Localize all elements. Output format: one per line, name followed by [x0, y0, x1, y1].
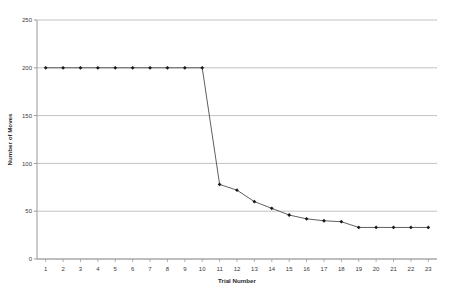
data-point-trial-23	[426, 226, 430, 230]
data-point-trial-14	[270, 206, 274, 210]
data-point-trial-17	[322, 219, 326, 223]
data-point-trial-19	[357, 226, 361, 230]
gridlines	[37, 20, 437, 259]
x-tick-label-12: 12	[234, 266, 241, 272]
data-point-trial-8	[166, 66, 170, 70]
x-tick-label-23: 23	[425, 266, 432, 272]
y-tick-label-0: 0	[29, 256, 33, 262]
y-tick-label-100: 100	[22, 161, 33, 167]
x-tick-label-11: 11	[216, 266, 223, 272]
x-tick-label-15: 15	[286, 266, 293, 272]
x-tick-label-18: 18	[338, 266, 345, 272]
x-tick-label-3: 3	[79, 266, 83, 272]
data-point-trial-18	[339, 220, 343, 224]
x-tick-label-9: 9	[183, 266, 187, 272]
y-tick-label-150: 150	[22, 113, 33, 119]
data-point-trial-22	[409, 226, 413, 230]
y-tick-label-250: 250	[22, 17, 33, 23]
data-line-number-of-moves	[46, 68, 429, 228]
x-tick-label-14: 14	[268, 266, 275, 272]
data-point-trial-21	[392, 226, 396, 230]
x-tick-label-21: 21	[390, 266, 397, 272]
x-axis-title: Trial Number	[218, 277, 256, 284]
data-point-trial-3	[79, 66, 83, 70]
x-tick-label-7: 7	[148, 266, 152, 272]
data-point-trial-4	[96, 66, 100, 70]
x-tick-label-8: 8	[166, 266, 170, 272]
y-axis-title: Number of Moves	[6, 113, 13, 165]
data-point-trial-5	[113, 66, 117, 70]
y-tick-label-50: 50	[25, 208, 32, 214]
data-point-trial-10	[200, 66, 204, 70]
data-point-trial-16	[305, 217, 309, 221]
data-markers	[44, 66, 430, 229]
x-tick-label-2: 2	[61, 266, 65, 272]
x-tick-label-6: 6	[131, 266, 135, 272]
data-point-trial-11	[218, 183, 222, 187]
data-point-trial-15	[287, 213, 291, 217]
x-tick-label-13: 13	[251, 266, 258, 272]
chart-container: 0501001502002501234567891011121314151617…	[0, 0, 450, 293]
y-tick-label-200: 200	[22, 65, 33, 71]
data-point-trial-9	[183, 66, 187, 70]
data-point-trial-20	[374, 226, 378, 230]
x-tick-label-16: 16	[303, 266, 310, 272]
data-point-trial-1	[44, 66, 48, 70]
x-tick-label-4: 4	[96, 266, 100, 272]
x-tick-label-19: 19	[355, 266, 362, 272]
y-axis-ticks: 050100150200250	[22, 17, 37, 262]
x-axis-ticks: 1234567891011121314151617181920212223	[44, 259, 432, 272]
x-tick-label-1: 1	[44, 266, 48, 272]
data-point-trial-7	[148, 66, 152, 70]
x-tick-label-17: 17	[321, 266, 328, 272]
x-tick-label-20: 20	[373, 266, 380, 272]
data-point-trial-6	[131, 66, 135, 70]
data-point-trial-2	[61, 66, 65, 70]
x-tick-label-5: 5	[114, 266, 118, 272]
x-tick-label-10: 10	[199, 266, 206, 272]
x-tick-label-22: 22	[408, 266, 415, 272]
line-chart: 0501001502002501234567891011121314151617…	[0, 0, 450, 293]
